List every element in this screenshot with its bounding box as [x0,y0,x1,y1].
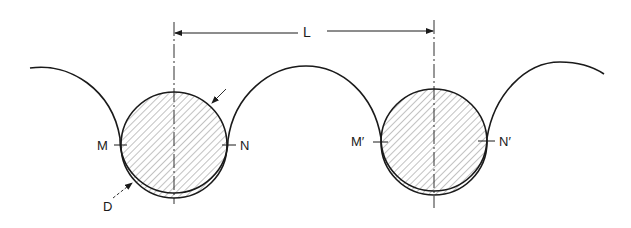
label-D: D [103,200,112,213]
label-L: L [303,25,311,39]
label-N: N [240,139,249,152]
wave-diagram [0,0,631,228]
label-M-prime: M′ [351,135,364,148]
wave-curve [30,62,604,193]
diameter-leader-lower [113,183,132,198]
diameter-leader-upper [212,89,226,103]
label-N-prime: N′ [499,135,511,148]
label-M: M [97,139,108,152]
